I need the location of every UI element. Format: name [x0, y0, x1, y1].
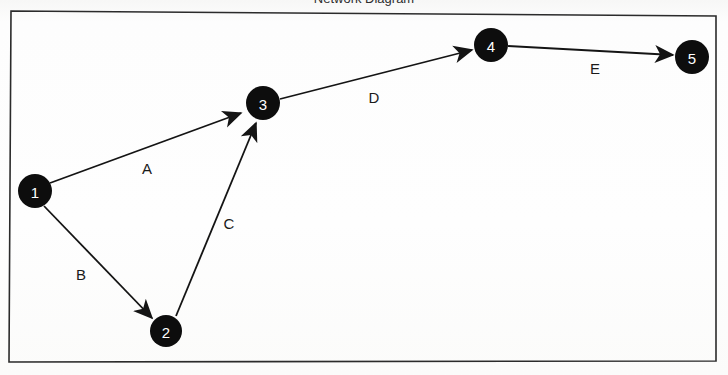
edge-a-label: A	[142, 160, 152, 177]
node-5-label: 5	[688, 50, 696, 67]
node-2-label: 2	[162, 324, 170, 341]
edge-c[interactable]: C	[176, 123, 256, 316]
edge-c-line	[176, 123, 256, 316]
edge-b-line	[44, 206, 152, 318]
edge-c-label: C	[224, 215, 235, 232]
node-1[interactable]: 1	[18, 174, 52, 208]
edge-d-label: D	[369, 89, 380, 106]
edge-d[interactable]: D	[280, 50, 472, 106]
edge-e[interactable]: E	[508, 46, 673, 77]
node-4-label: 4	[487, 38, 495, 55]
edge-e-line	[508, 46, 673, 55]
edge-b[interactable]: B	[44, 206, 152, 318]
network-diagram-canvas: A B C D E	[0, 0, 728, 375]
node-1-label: 1	[31, 184, 39, 201]
node-3-label: 3	[259, 96, 267, 113]
node-5[interactable]: 5	[675, 40, 709, 74]
diagram-border	[9, 11, 716, 362]
node-3[interactable]: 3	[246, 86, 280, 120]
node-4[interactable]: 4	[474, 28, 508, 62]
node-group: 1 2 3 4 5	[18, 28, 709, 347]
edge-a[interactable]: A	[50, 113, 241, 183]
node-2[interactable]: 2	[150, 315, 182, 347]
edge-group: A B C D E	[44, 46, 673, 318]
edge-b-label: B	[76, 266, 86, 283]
diagram-page: Network Diagram A B C	[0, 0, 728, 375]
edge-e-label: E	[590, 60, 600, 77]
